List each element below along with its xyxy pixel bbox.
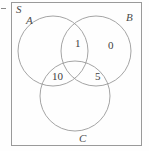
label-set-c: C [79, 133, 86, 144]
region-value-a-and-c-only: 10 [52, 71, 63, 82]
label-universal-set-s: S [16, 4, 22, 15]
region-value-b-and-c-only: 5 [95, 71, 101, 82]
label-set-a: A [26, 15, 33, 26]
region-value-a-and-b-only: 1 [75, 38, 81, 49]
venn-diagram-figure: S A B C 1 0 10 5 [0, 0, 149, 151]
label-set-b: B [126, 12, 133, 23]
region-value-b-only: 0 [108, 40, 114, 51]
